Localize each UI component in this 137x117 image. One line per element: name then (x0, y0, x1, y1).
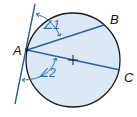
circle-tangent-diagram: A B C ∠1 ∠2 (0, 0, 137, 117)
label-angle-2: ∠2 (38, 66, 56, 80)
label-c: C (124, 70, 134, 85)
label-a: A (12, 43, 22, 58)
label-angle-1: ∠1 (42, 18, 60, 32)
label-b: B (110, 12, 119, 27)
point-a-dot (25, 48, 29, 52)
